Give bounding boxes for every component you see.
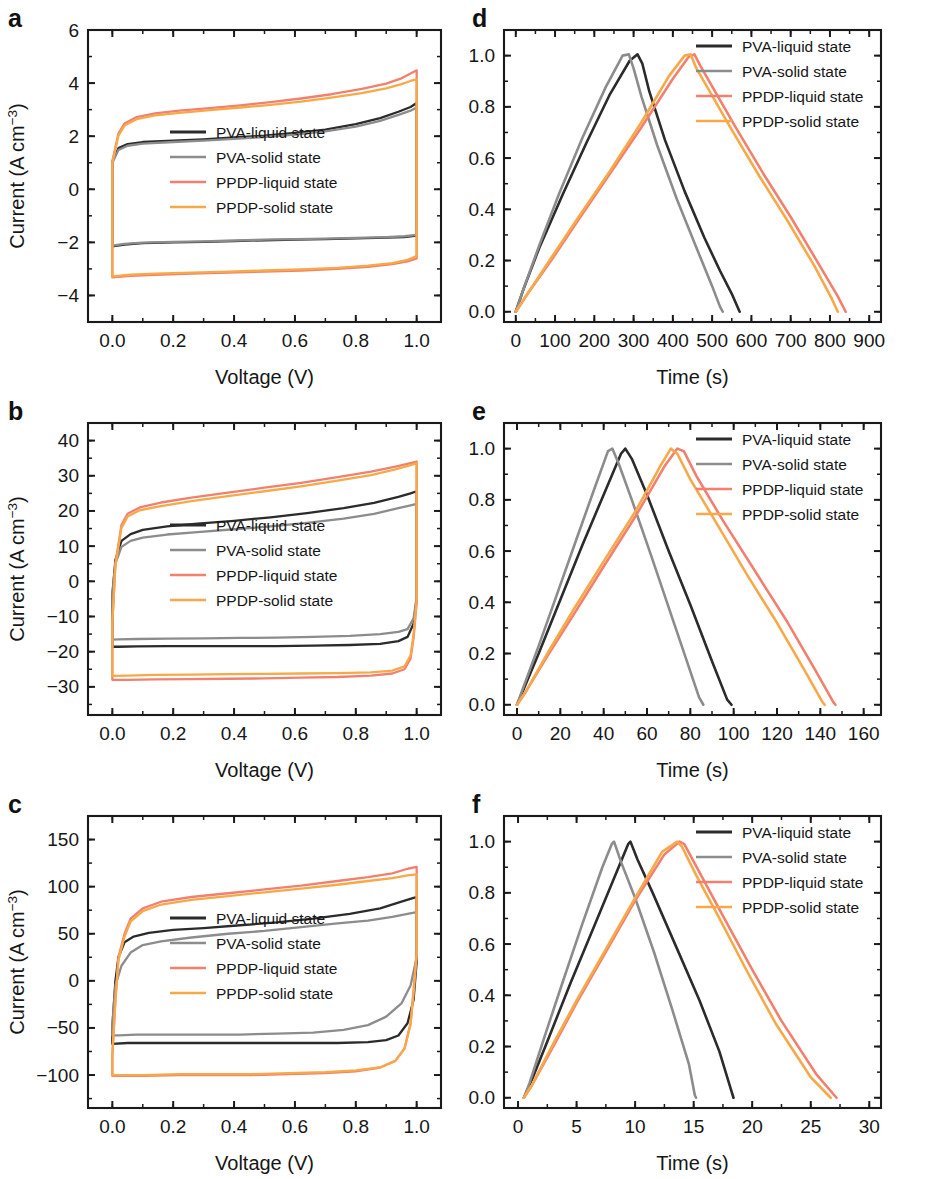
y-axis-title-suffix: ) [6,496,28,503]
y-tick-label: −4 [57,285,79,306]
x-tick-label: 15 [683,1116,704,1137]
legend-label[interactable]: PVA-solid state [216,542,321,559]
legend-label[interactable]: PVA-solid state [742,456,847,473]
x-tick-label: 160 [848,723,880,744]
x-tick-label: 400 [657,330,689,351]
legend-label[interactable]: PPDP-liquid state [216,960,337,977]
x-tick-label: 20 [550,723,571,744]
y-tick-label: 0.6 [469,934,495,955]
panel-f: f0510152025300.00.20.40.60.81.0Time (s)V… [464,786,928,1176]
legend-label[interactable]: PPDP-liquid state [742,88,863,105]
legend-label[interactable]: PVA-solid state [216,935,321,952]
y-tick-label: 0.0 [469,1087,495,1108]
x-tick-label: 300 [618,330,650,351]
y-axis-title-prefix: Current (A cm [6,518,28,641]
y-axis-title: Current (A cm−3) [5,103,28,248]
x-tick-label: 800 [814,330,846,351]
plot-b: 0.00.20.40.60.81.0−30−20−10010203040Volt… [0,393,464,783]
x-tick-label: 0.6 [282,330,308,351]
x-tick-label: 10 [625,1116,646,1137]
y-tick-label: 0.0 [469,301,495,322]
x-tick-label: 80 [680,723,701,744]
x-tick-label: 0.6 [282,1116,308,1137]
x-tick-label: 0.8 [343,330,369,351]
x-tick-label: 0.8 [343,1116,369,1137]
x-axis-title: Time (s) [656,1152,729,1174]
y-tick-label: 10 [58,536,79,557]
legend-label[interactable]: PPDP-solid state [216,985,333,1002]
y-axis-title-suffix: ) [6,889,28,896]
legend-e: PVA-liquid statePVA-solid statePPDP-liqu… [696,431,863,523]
panel-b: b0.00.20.40.60.81.0−30−20−10010203040Vol… [0,393,464,783]
x-tick-label: 120 [761,723,793,744]
y-tick-label: 0 [68,970,79,991]
x-tick-label: 0 [513,1116,524,1137]
y-tick-label: 50 [58,923,79,944]
legend-label[interactable]: PVA-solid state [216,149,321,166]
curve-e-series-1 [517,449,703,705]
legend-label[interactable]: PPDP-liquid state [216,174,337,191]
x-tick-label: 900 [853,330,885,351]
legend-label[interactable]: PPDP-solid state [742,899,859,916]
y-tick-label: 0 [68,571,79,592]
y-tick-label: 0 [68,179,79,200]
y-tick-label: 0.4 [469,199,496,220]
x-tick-label: 0.2 [160,723,186,744]
legend-label[interactable]: PVA-liquid state [216,517,325,534]
x-tick-label: 100 [718,723,750,744]
y-axis-title-superscript: −3 [5,503,20,518]
legend-label[interactable]: PVA-liquid state [742,824,851,841]
y-tick-label: 0.6 [469,541,495,562]
x-tick-label: 0.0 [99,330,125,351]
legend-label[interactable]: PPDP-liquid state [742,874,863,891]
curve-f-series-1 [524,842,696,1098]
legend-label[interactable]: PVA-solid state [742,849,847,866]
y-tick-label: 0.0 [469,694,495,715]
y-axis-title-superscript: −3 [5,110,20,125]
x-axis-title: Time (s) [656,366,729,388]
legend-label[interactable]: PPDP-solid state [742,506,859,523]
y-tick-label: 0.6 [469,148,495,169]
legend-label[interactable]: PVA-liquid state [742,38,851,55]
y-axis-title-suffix: ) [6,103,28,110]
legend-label[interactable]: PVA-liquid state [216,910,325,927]
legend-label[interactable]: PVA-liquid state [742,431,851,448]
x-tick-label: 1.0 [403,1116,429,1137]
y-axis-title-prefix: Current (A cm [6,911,28,1034]
y-tick-label: 40 [58,430,79,451]
x-tick-label: 0.2 [160,330,186,351]
curve-e-series-0 [517,449,732,705]
legend-label[interactable]: PPDP-solid state [216,199,333,216]
x-tick-label: 0 [510,330,521,351]
legend-label[interactable]: PPDP-liquid state [742,481,863,498]
legend-label[interactable]: PPDP-solid state [216,592,333,609]
figure-container: a0.00.20.40.60.81.0−4−20246Voltage (V)Cu… [0,0,928,1179]
legend-b: PVA-liquid statePVA-solid statePPDP-liqu… [170,517,337,609]
legend-label[interactable]: PPDP-solid state [742,113,859,130]
y-axis-title-prefix: Current (A cm [6,125,28,248]
x-tick-label: 40 [593,723,614,744]
legend-label[interactable]: PVA-liquid state [216,124,325,141]
x-tick-label: 0.0 [99,1116,125,1137]
y-tick-label: −10 [47,606,79,627]
y-tick-label: 0.2 [469,1036,495,1057]
x-tick-label: 500 [696,330,728,351]
x-tick-label: 0.4 [221,1116,248,1137]
y-tick-label: 6 [68,20,79,41]
y-tick-label: 150 [47,829,79,850]
panel-d: d01002003004005006007008009000.00.20.40.… [464,0,928,390]
y-tick-label: 0.2 [469,643,495,664]
x-axis-title: Time (s) [656,759,729,781]
legend-label[interactable]: PVA-solid state [742,63,847,80]
y-tick-label: 0.2 [469,250,495,271]
x-tick-label: 20 [742,1116,763,1137]
x-tick-label: 0.0 [99,723,125,744]
y-tick-label: 4 [68,73,79,94]
y-tick-label: −30 [47,676,79,697]
legend-label[interactable]: PPDP-liquid state [216,567,337,584]
x-tick-label: 0.8 [343,723,369,744]
x-tick-label: 140 [804,723,836,744]
x-tick-label: 200 [578,330,610,351]
x-tick-label: 25 [800,1116,821,1137]
x-tick-label: 30 [859,1116,880,1137]
